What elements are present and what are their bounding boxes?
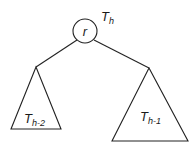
tree-diagram: r Th Th-2 Th-1: [0, 0, 195, 150]
edge-root-right: [94, 40, 149, 68]
right-subtree-triangle: [112, 68, 188, 141]
tree-label: Th: [101, 9, 114, 26]
root-label: r: [83, 24, 88, 39]
right-subtree-label: Th-1: [140, 109, 161, 126]
edge-root-left: [36, 40, 77, 67]
left-subtree-label: Th-2: [24, 111, 45, 128]
